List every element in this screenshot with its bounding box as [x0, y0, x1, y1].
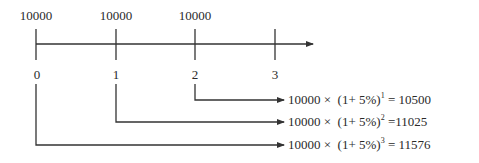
connector-period-0	[36, 84, 284, 145]
formula-year-2: 10000 × (1+ 5%)2 =11025	[288, 115, 427, 129]
connector-period-2	[195, 84, 284, 100]
period-label-1: 1	[113, 68, 120, 82]
period-label-0: 0	[34, 68, 41, 82]
amount-label-1: 10000	[100, 9, 133, 23]
formula-year-3: 10000 × (1+ 5%)3 = 11576	[288, 138, 431, 152]
period-label-3: 3	[272, 68, 279, 82]
amount-label-2: 10000	[179, 9, 212, 23]
period-label-2: 2	[192, 68, 199, 82]
connector-period-1	[116, 84, 284, 122]
formula-year-1: 10000 × (1+ 5%)1 = 10500	[288, 93, 431, 107]
amount-label-0: 10000	[20, 9, 53, 23]
